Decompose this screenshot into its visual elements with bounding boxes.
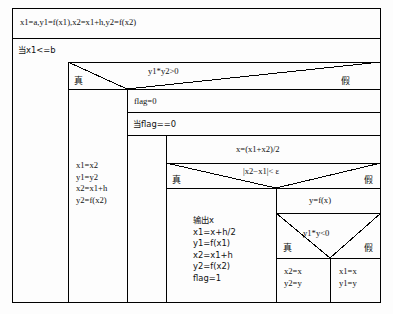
divider-true-branch-column (127, 89, 128, 303)
condition-tolerance-text: |x2−x1|< ε (243, 166, 279, 177)
inner-while-loop-label: 当flag==0 (133, 119, 176, 131)
condition-sign-product-text: y1*y2>0 (148, 66, 179, 77)
condition-sign-product-true-label: 真 (74, 76, 83, 86)
midpoint-statement: x=(x1+x2)/2 (236, 144, 280, 156)
divider-condition-bisection-bottom (276, 258, 381, 259)
init-statement: x1=a,y1=f(x1),x2=x1+h,y2=f(x2) (20, 17, 136, 29)
condition-bisection-false-label: 假 (364, 243, 373, 253)
condition-bisection-text: y1*y<0 (303, 228, 329, 239)
condition-sign-product-false-label: 假 (341, 76, 350, 86)
assign-left-endpoint-statement: x1=x y1=y (339, 266, 357, 289)
outer-while-loop-label: 当x1<=b (18, 45, 56, 57)
output-statement: 输出x x1=x+h/2 y1=f(x1) x2=x1+h y2=f(x2) f… (193, 215, 236, 285)
inner-loop-body-left-edge (166, 135, 167, 303)
assign-right-endpoint-statement: x2=x y2=y (284, 266, 302, 289)
divider-init-bottom (12, 38, 381, 39)
divider-condition-tolerance-bottom (166, 188, 381, 189)
evaluate-function-statement: y=f(x) (309, 195, 331, 207)
condition-bisection-true-label: 真 (283, 243, 292, 253)
divider-bisection-assign-columns (330, 258, 331, 303)
flag-reset-statement: flag=0 (134, 96, 157, 108)
condition-tolerance-true-label: 真 (172, 175, 181, 185)
flowchart-canvas: x1=a,y1=f(x1),x2=x1+h,y2=f(x2) 当x1<=b y1… (0, 0, 393, 314)
divider-condition-sign-bottom (68, 89, 381, 90)
condition-sign-product-diagonals (68, 62, 381, 89)
divider-flag-reset-bottom (127, 112, 381, 113)
advance-step-statement: x1=x2 y1=y2 x2=x1+h y2=f(x2) (76, 160, 107, 206)
condition-tolerance-false-label: 假 (364, 175, 373, 185)
